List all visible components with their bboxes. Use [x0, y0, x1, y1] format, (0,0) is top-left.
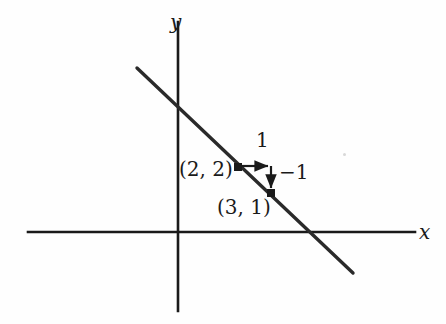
slope-diagram-figure: y x (2, 2) (3, 1) 1 −1	[0, 0, 446, 324]
rise-value-label: −1	[279, 162, 308, 182]
point-b-label: (3, 1)	[217, 197, 271, 217]
paper-speck	[343, 153, 346, 156]
graphed-line	[137, 68, 353, 273]
x-axis-label: x	[419, 222, 430, 242]
y-axis-label: y	[170, 12, 181, 32]
point-a-label: (2, 2)	[179, 159, 233, 179]
run-value-label: 1	[256, 130, 269, 150]
point-a-marker	[234, 163, 242, 171]
